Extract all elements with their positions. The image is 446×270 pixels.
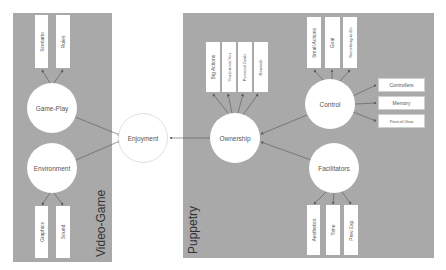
scenario-box: Scenario: [35, 15, 48, 68]
facilitators-label: Facilitators: [318, 165, 349, 172]
you-but-not-you-label: You-but-not-You: [227, 53, 232, 82]
environment-node: Environment: [27, 143, 77, 193]
ownership-node: Ownership: [210, 113, 260, 163]
enjoyment-node: Enjoyment: [118, 113, 168, 163]
controllers-label: Controllers: [389, 82, 413, 88]
sound-label: Sound: [60, 225, 66, 239]
sound-box: Sound: [56, 206, 70, 258]
something-to-do-label: Something-to-Do: [348, 27, 353, 57]
aesthetics-label: Aesthetics: [311, 218, 317, 241]
facilitators-node: Facilitators: [309, 143, 359, 193]
puppetry-label: Puppetry: [186, 206, 200, 254]
memory-box: Memory: [378, 96, 425, 110]
time-label: Time: [330, 225, 336, 236]
graphics-box: Graphics: [35, 206, 48, 258]
you-but-not-you-box: You-but-not-You: [222, 42, 236, 92]
control-node: Control: [305, 79, 355, 129]
rules-label: Rules: [60, 35, 66, 48]
aesthetics-box: Aesthetics: [307, 205, 320, 255]
control-label: Control: [320, 101, 341, 108]
game-play-label: Game-Play: [36, 105, 69, 112]
controllers-box: Controllers: [378, 78, 425, 92]
rewards-box: Rewards: [254, 42, 268, 92]
goal-label: Goal: [330, 37, 336, 48]
enjoyment-label: Enjoyment: [128, 135, 159, 142]
environment-label: Environment: [34, 165, 71, 172]
big-actions-box: Big Actions: [206, 42, 220, 92]
point-of-view-box: Point-of-View: [378, 114, 425, 128]
memory-label: Memory: [392, 100, 410, 106]
rewards-label: Rewards: [259, 59, 264, 75]
prev-exp-label: Prev.Exp.: [348, 219, 354, 240]
ownership-label: Ownership: [219, 135, 250, 142]
scenario-label: Scenario: [39, 32, 45, 52]
big-actions-label: Big Actions: [210, 55, 216, 80]
video-game-label: Video-Game: [94, 190, 108, 257]
game-play-node: Game-Play: [27, 83, 77, 133]
point-of-view-label: Point-of-View: [390, 119, 414, 124]
prev-exp-box: Prev.Exp.: [344, 205, 358, 255]
small-actions-label: Small Actions: [311, 27, 317, 57]
small-actions-box: Small Actions: [307, 17, 321, 68]
personal-goals-box: Personal Goals: [238, 42, 252, 92]
personal-goals-label: Personal Goals: [243, 53, 248, 80]
rules-box: Rules: [56, 15, 70, 68]
something-to-do-box: Something-to-Do: [343, 17, 357, 68]
goal-box: Goal: [325, 17, 340, 68]
graphics-label: Graphics: [39, 222, 45, 242]
time-box: Time: [326, 205, 340, 255]
